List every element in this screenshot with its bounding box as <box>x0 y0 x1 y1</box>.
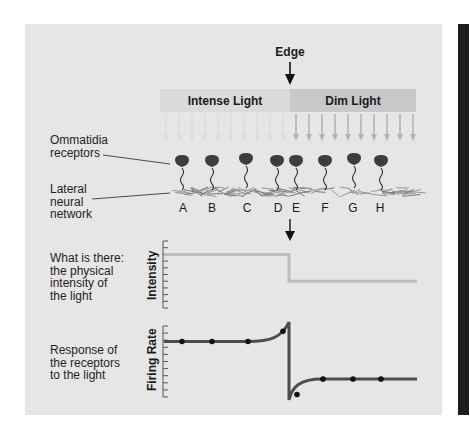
intense-light-ray <box>267 114 273 141</box>
intense-light-ray <box>176 114 182 141</box>
receptor-axon <box>181 168 184 190</box>
network-fiber <box>261 188 274 189</box>
network-fiber <box>278 194 289 196</box>
receptor-head <box>239 153 253 165</box>
dim-light-ray <box>293 114 299 141</box>
receptor-label: F <box>321 201 328 215</box>
lateral-pointer <box>92 193 170 199</box>
network-fiber <box>172 191 186 192</box>
edge-label: Edge <box>275 45 305 59</box>
receptor-f <box>318 155 332 190</box>
network-fiber <box>383 189 392 190</box>
network-fiber <box>202 194 216 196</box>
receptor-label: B <box>208 201 216 215</box>
dim-light-ray <box>410 114 416 141</box>
firing-point-b <box>209 339 215 345</box>
what-is-there-line: the light <box>50 290 124 303</box>
what-is-there-line: What is there: <box>50 252 124 265</box>
receptor-head <box>374 155 388 167</box>
receptor-head <box>318 155 332 167</box>
edge-arrow-icon <box>285 62 295 85</box>
firing-point-d <box>280 329 286 335</box>
ommatidia-label: Ommatidia receptors <box>50 134 108 159</box>
intense-light-ray <box>241 114 247 141</box>
network-fiber <box>348 192 361 193</box>
light-rays <box>163 114 416 141</box>
receptor-e <box>289 155 303 190</box>
dim-light-ray <box>397 114 403 141</box>
firing-point-a <box>179 339 185 345</box>
receptor-d <box>270 155 284 190</box>
receptor-head <box>175 155 189 167</box>
intensity-axis <box>163 241 168 308</box>
receptor-axon <box>276 168 279 190</box>
receptor-axon <box>245 166 248 188</box>
receptor-a <box>175 155 189 190</box>
lateral-neural-network <box>172 187 426 197</box>
lateral-label-line: Lateral <box>50 183 92 196</box>
receptor-head <box>347 153 361 165</box>
what-is-there-label: What is there: the physical intensity of… <box>50 252 124 302</box>
lateral-network-label: Lateral neural network <box>50 183 92 221</box>
receptor-c <box>239 153 253 188</box>
dim-light-ray <box>319 114 325 141</box>
intense-light-ray <box>280 114 286 141</box>
receptor-axon <box>380 168 383 190</box>
network-fiber <box>402 194 420 196</box>
receptor-h <box>374 155 388 190</box>
network-fiber <box>331 190 339 197</box>
response-label: Response of the receptors to the light <box>50 344 120 382</box>
network-fiber <box>340 187 349 188</box>
intense-light-ray <box>254 114 260 141</box>
firing-point-e <box>294 392 300 398</box>
response-line: Response of <box>50 344 120 357</box>
receptor-head <box>289 155 303 167</box>
receptor-label: D <box>274 201 283 215</box>
receptor-head <box>205 155 219 167</box>
receptor-b <box>205 155 219 190</box>
receptor-label: E <box>292 201 300 215</box>
intensity-axis-label: Intensity <box>145 250 159 300</box>
network-fiber <box>384 194 395 195</box>
receptor-g <box>347 153 361 188</box>
intense-light-ray <box>228 114 234 141</box>
intensity-line <box>164 254 417 281</box>
dim-light-ray <box>384 114 390 141</box>
ommatidia-receptors: ABCDEFGH <box>175 153 388 215</box>
firing-point-f <box>320 376 326 382</box>
receptor-label: C <box>243 201 252 215</box>
lateral-label-line: network <box>50 208 92 221</box>
receptor-label: A <box>179 201 187 215</box>
firing-point-g <box>350 376 356 382</box>
response-line: to the light <box>50 369 120 382</box>
dim-light-ray <box>306 114 312 141</box>
dim-light-ray <box>345 114 351 141</box>
ommatidia-label-line: Ommatidia <box>50 134 108 147</box>
receptor-axon <box>295 168 298 190</box>
intense-light-ray <box>202 114 208 141</box>
network-fiber <box>177 192 189 193</box>
dim-light-ray <box>371 114 377 141</box>
firing-rate-axis-label: Firing Rate <box>145 328 159 391</box>
firing-point-c <box>245 339 251 345</box>
receptor-label: H <box>376 201 385 215</box>
firing-rate-line <box>164 322 417 400</box>
receptor-axon <box>324 168 327 190</box>
ommatidia-pointer <box>103 155 170 164</box>
ommatidia-label-line: receptors <box>50 147 108 160</box>
receptor-axon <box>353 166 356 188</box>
dim-light-label: Dim Light <box>325 94 380 108</box>
what-is-there-line: intensity of <box>50 277 124 290</box>
intense-light-ray <box>189 114 195 141</box>
receptor-head <box>270 155 284 167</box>
intense-light-ray <box>215 114 221 141</box>
firing-point-h <box>378 376 384 382</box>
edge-arrow-lower-icon <box>285 219 295 241</box>
receptor-label: G <box>348 201 357 215</box>
intense-light-ray <box>163 114 169 141</box>
firing-rate-axis <box>163 326 168 397</box>
dim-light-ray <box>358 114 364 141</box>
intense-light-label: Intense Light <box>188 94 263 108</box>
firing-rate-points <box>179 329 384 398</box>
dim-light-ray <box>332 114 338 141</box>
